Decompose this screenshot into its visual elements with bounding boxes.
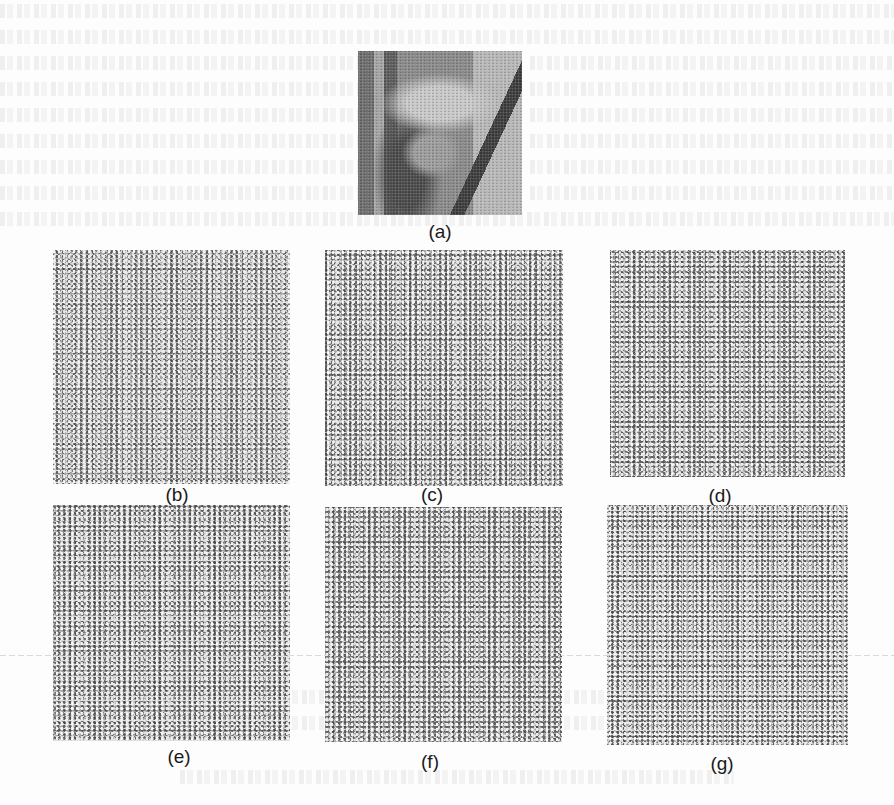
panel-a-caption: (a) bbox=[410, 221, 470, 243]
show-through-text bbox=[530, 82, 894, 96]
panel-c-noise-image bbox=[325, 250, 563, 486]
panel-e-caption: (e) bbox=[149, 746, 209, 768]
panel-g-caption: (g) bbox=[692, 753, 752, 775]
show-through-text bbox=[530, 134, 894, 148]
panel-c-caption: (c) bbox=[402, 484, 462, 506]
show-through-text bbox=[0, 30, 894, 44]
panel-d-caption: (d) bbox=[690, 485, 750, 507]
panel-e-noise-image bbox=[53, 505, 290, 741]
panel-d-noise-image bbox=[610, 250, 845, 477]
panel-g-noise-image bbox=[607, 505, 848, 745]
show-through-text bbox=[530, 160, 894, 174]
panel-f-caption: (f) bbox=[400, 751, 460, 773]
panel-a-photo bbox=[358, 51, 522, 215]
panel-b-caption: (b) bbox=[147, 484, 207, 506]
show-through-text bbox=[0, 4, 894, 18]
show-through-text bbox=[530, 108, 894, 122]
panel-f-noise-image bbox=[325, 507, 562, 742]
show-through-text bbox=[530, 186, 894, 200]
panel-b-noise-image bbox=[53, 250, 290, 484]
show-through-text bbox=[530, 56, 894, 70]
